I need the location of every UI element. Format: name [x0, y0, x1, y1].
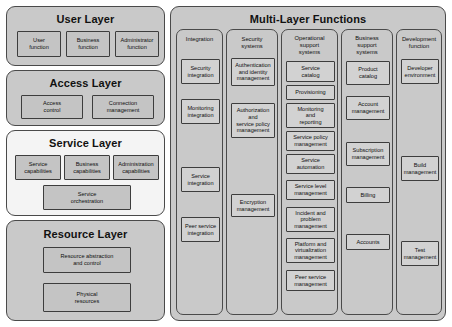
business-function-box: Business function — [66, 31, 110, 57]
service-catalog-box: Service catalog — [286, 61, 335, 82]
subscription-management-box: Subscription management — [346, 142, 390, 166]
service-integration-box: Service integration — [181, 167, 220, 192]
service-level-management-box: Service level management — [286, 180, 335, 200]
incident-and-problem-management-box: Incident and problem management — [286, 207, 335, 232]
account-management-box: Account management — [346, 96, 390, 120]
multi-layer-functions-panel: Multi-Layer Functions Integration Securi… — [170, 6, 446, 321]
access-layer-panel: Access Layer Access control Connection m… — [6, 70, 165, 126]
build-management-box: Build management — [401, 156, 439, 181]
provisioning-box: Provisioning — [286, 85, 335, 100]
user-layer-title: User Layer — [7, 14, 164, 25]
column-development-function: Development function Developer environme… — [396, 29, 442, 315]
physical-resources-box: Physical resources — [43, 283, 131, 312]
service-policy-management-box: Service policy management — [286, 131, 335, 151]
product-catalog-box: Product catalog — [346, 61, 390, 85]
service-capabilities-box: Service capabilities — [15, 155, 61, 180]
multi-layer-functions-title: Multi-Layer Functions — [171, 14, 445, 25]
test-management-box: Test management — [401, 241, 439, 266]
administration-capabilities-box: Administration capabilities — [113, 155, 159, 180]
column-integration: Integration Security integration Monitor… — [176, 29, 223, 315]
service-automation-box: Service automation — [286, 154, 335, 174]
security-integration-box: Security integration — [181, 59, 220, 84]
resource-layer-title: Resource Layer — [7, 229, 164, 240]
business-capabilities-box: Business capabilities — [64, 155, 110, 180]
authentication-and-identity-management-box: Authentication and identity management — [231, 58, 275, 86]
encryption-management-box: Encryption management — [231, 194, 275, 217]
accounts-box: Accounts — [346, 234, 390, 250]
service-layer-title: Service Layer — [7, 138, 164, 149]
diagram-canvas: User Layer User function Business functi… — [0, 0, 452, 327]
peer-service-management-box: Peer service management — [286, 270, 335, 291]
column-operational-support-systems: Operational support systems Service cata… — [281, 29, 338, 315]
monitoring-and-reporting-box: Monitoring and reporting — [286, 103, 335, 128]
billing-box: Billing — [346, 187, 390, 203]
service-layer-panel: Service Layer Service capabilities Busin… — [6, 130, 165, 216]
administrator-function-box: Administrator function — [115, 31, 159, 57]
column-business-support-systems-header: Business support systems — [344, 35, 390, 55]
column-business-support-systems: Business support systems Product catalog… — [341, 29, 393, 315]
resource-layer-panel: Resource Layer Resource abstraction and … — [6, 220, 165, 321]
column-security-systems: Security systems Authentication and iden… — [226, 29, 278, 315]
service-orchestration-box: Service orchestration — [43, 185, 131, 210]
developer-environment-box: Developer environment — [401, 59, 439, 84]
access-control-box: Access control — [21, 95, 83, 119]
resource-abstraction-and-control-box: Resource abstraction and control — [43, 247, 131, 273]
platform-and-virtualization-management-box: Platform and virtualization management — [286, 238, 335, 263]
authorization-and-service-policy-management-box: Authorization and service policy managem… — [231, 103, 275, 138]
column-integration-header: Integration — [179, 36, 220, 43]
user-layer-panel: User Layer User function Business functi… — [6, 6, 165, 66]
connection-management-box: Connection management — [92, 95, 154, 119]
access-layer-title: Access Layer — [7, 78, 164, 89]
column-security-systems-header: Security systems — [229, 36, 275, 50]
peer-service-integration-box: Peer service integration — [181, 217, 220, 242]
monitoring-integration-box: Monitoring integration — [181, 99, 220, 124]
user-function-box: User function — [17, 31, 61, 57]
column-operational-support-systems-header: Operational support systems — [284, 35, 335, 55]
column-development-function-header: Development function — [399, 36, 439, 50]
